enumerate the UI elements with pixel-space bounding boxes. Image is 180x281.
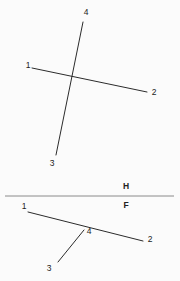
figure-root: 1 2 3 4 H F 1 2 3 4 [0, 0, 180, 281]
line-1-2-top [32, 68, 147, 92]
label-point-1-front: 1 [22, 201, 27, 211]
line-1-2-front [28, 212, 143, 241]
label-horizontal-plane: H [123, 181, 129, 191]
fold-line-group: H F [5, 181, 174, 210]
line-4-3-front [58, 230, 84, 262]
front-view: 1 2 3 4 [22, 201, 153, 273]
label-frontal-plane: F [123, 200, 128, 210]
label-point-3-top: 3 [50, 158, 55, 168]
label-point-3-front: 3 [47, 263, 52, 273]
geometry-diagram: 1 2 3 4 H F 1 2 3 4 [0, 0, 180, 281]
line-4-3-top [56, 22, 83, 155]
top-view: 1 2 3 4 [26, 7, 157, 168]
label-point-2-top: 2 [152, 87, 157, 97]
label-point-1-top: 1 [26, 60, 31, 70]
label-point-4-front: 4 [87, 226, 92, 236]
label-point-4-top: 4 [84, 7, 89, 17]
label-point-2-front: 2 [148, 234, 153, 244]
